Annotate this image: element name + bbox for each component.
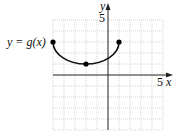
x-tick-5: 5 (157, 75, 163, 89)
data-point (116, 39, 121, 44)
x-axis-label: x (165, 75, 172, 89)
curve-label: y = g(x) (6, 35, 46, 49)
y-tick-5: 5 (99, 11, 105, 25)
data-point (50, 39, 55, 44)
graph: y 5 5 x y = g(x) (0, 0, 175, 134)
curve-label-prefix: y = g (6, 35, 32, 49)
data-point (83, 61, 88, 66)
curve-label-arg: (x) (32, 35, 45, 49)
y-axis-arrow-icon (106, 3, 111, 10)
